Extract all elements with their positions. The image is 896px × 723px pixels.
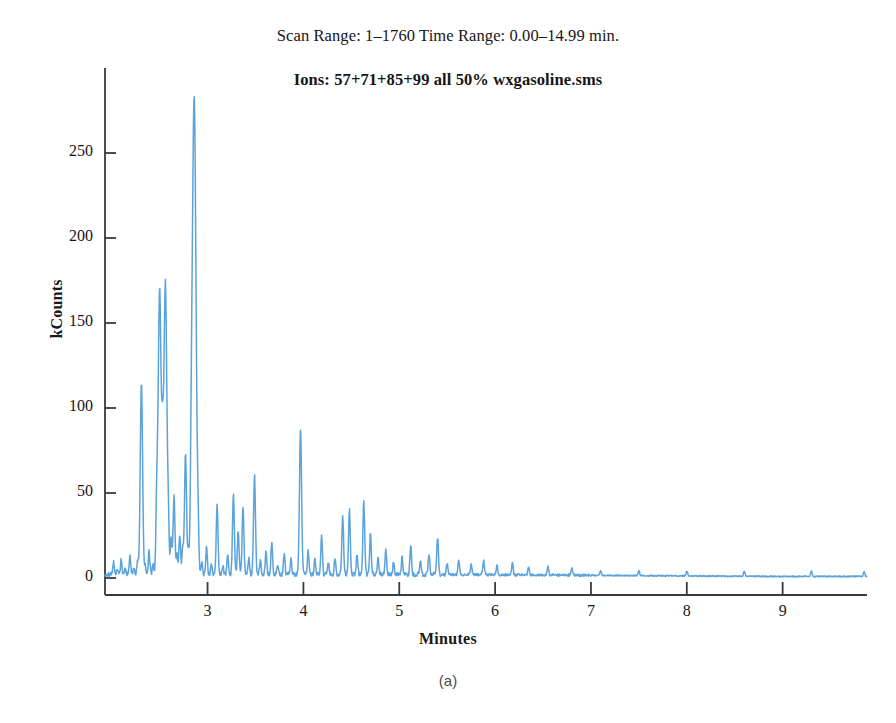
plot-area: 0501001502002503456789: [0, 0, 896, 723]
y-tick-label: 0: [43, 567, 93, 585]
x-tick-label: 9: [768, 602, 798, 620]
chromatogram-figure: Scan Range: 1–1760 Time Range: 0.00–14.9…: [0, 0, 896, 723]
y-tick-label: 50: [43, 482, 93, 500]
y-tick-label: 200: [43, 227, 93, 245]
y-tick-label: 150: [43, 312, 93, 330]
axes: [105, 68, 867, 595]
chromatogram-trace: [105, 97, 867, 577]
x-tick-label: 5: [384, 602, 414, 620]
x-axis-ticks: [208, 582, 783, 595]
x-tick-label: 8: [672, 602, 702, 620]
x-tick-label: 6: [480, 602, 510, 620]
y-axis-ticks: [105, 153, 116, 578]
chromatogram-svg: [0, 0, 896, 723]
x-tick-label: 4: [288, 602, 318, 620]
y-tick-label: 100: [43, 397, 93, 415]
y-tick-label: 250: [43, 142, 93, 160]
x-tick-label: 7: [576, 602, 606, 620]
x-tick-label: 3: [193, 602, 223, 620]
